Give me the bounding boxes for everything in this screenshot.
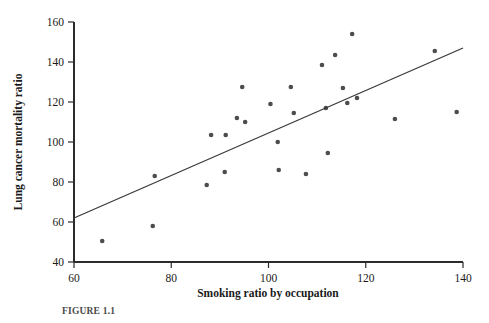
data-point bbox=[240, 85, 245, 90]
data-point bbox=[152, 174, 157, 179]
y-tick-label: 60 bbox=[53, 216, 65, 228]
data-point bbox=[276, 168, 281, 173]
data-point bbox=[320, 63, 325, 68]
x-tick-label: 80 bbox=[166, 272, 178, 284]
x-axis-label: Smoking ratio by occupation bbox=[197, 287, 339, 300]
figure-caption-text: FIGURE 1.1 bbox=[62, 306, 115, 316]
data-point bbox=[432, 49, 437, 54]
y-tick-label: 160 bbox=[47, 16, 65, 28]
data-point bbox=[291, 111, 296, 116]
data-point bbox=[289, 85, 294, 90]
data-point bbox=[275, 140, 280, 145]
data-point bbox=[355, 96, 360, 101]
data-point bbox=[204, 183, 209, 188]
y-tick-label: 140 bbox=[47, 56, 65, 68]
figure-root: 406080100120140160 6080100120140 Smoking… bbox=[0, 0, 489, 323]
data-point bbox=[326, 151, 331, 156]
data-point bbox=[454, 110, 459, 115]
data-point bbox=[223, 133, 228, 138]
data-point bbox=[209, 133, 214, 138]
data-point bbox=[333, 53, 338, 58]
y-axis-label: Lung cancer mortality ratio bbox=[12, 73, 25, 210]
y-tick-label: 80 bbox=[53, 176, 65, 188]
scatter-plot: 406080100120140160 6080100120140 Smoking… bbox=[0, 0, 489, 323]
data-point bbox=[150, 224, 155, 229]
y-tick-label: 40 bbox=[53, 256, 65, 268]
data-point bbox=[393, 117, 398, 122]
figure-caption: FIGURE 1.1 bbox=[62, 306, 115, 316]
data-point bbox=[304, 172, 309, 177]
x-tick-label: 100 bbox=[260, 272, 278, 284]
x-tick-label: 60 bbox=[68, 272, 80, 284]
data-point bbox=[235, 116, 240, 121]
data-point bbox=[341, 86, 346, 91]
data-point bbox=[268, 102, 273, 107]
y-tick-label: 100 bbox=[47, 136, 65, 148]
data-point bbox=[350, 32, 355, 37]
data-point bbox=[243, 120, 248, 125]
data-point bbox=[100, 239, 105, 244]
data-point bbox=[345, 101, 350, 106]
x-tick-label: 120 bbox=[357, 272, 375, 284]
y-tick-label: 120 bbox=[47, 96, 65, 108]
x-tick-label: 140 bbox=[454, 272, 472, 284]
data-point bbox=[222, 170, 227, 175]
